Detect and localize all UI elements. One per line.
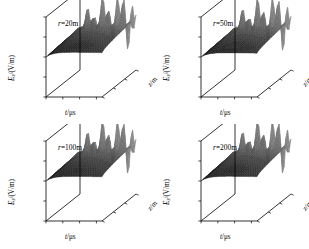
y-axis-label-units: /(V/m) <box>163 179 171 199</box>
panel-title: r=20m <box>58 19 78 28</box>
z-tick <box>102 221 105 222</box>
y-axis-label: Ez/(V/m) <box>163 55 171 81</box>
z-tick <box>268 212 271 213</box>
y-axis-label-units: /(V/m) <box>8 179 16 199</box>
x-axis-label-units: /μs <box>222 109 231 117</box>
panel-title-value: =50m <box>216 19 233 28</box>
z-tick <box>291 194 294 195</box>
z-tick <box>280 203 283 204</box>
z-tick <box>291 70 294 71</box>
z-tick <box>136 70 139 71</box>
panel-r-200m: r=200mEz/(V/m)t/μsz/m <box>155 124 309 248</box>
z-tick <box>268 88 271 89</box>
y-axis-label-units: /(V/m) <box>8 55 16 75</box>
z-tick <box>125 79 128 80</box>
z-tick <box>102 97 105 98</box>
panel-title-value: =100m <box>61 143 82 152</box>
z-tick <box>125 203 128 204</box>
panel-title: r=50m <box>213 19 233 28</box>
z-tick <box>257 97 260 98</box>
panel-title-value: =200m <box>216 143 237 152</box>
figure-multi-panel-surface-plots: r=20mEz/(V/m)t/μsz/m r=50mEz/(V/m)t/μsz/… <box>0 0 309 249</box>
x-axis-label: t/μs <box>65 109 76 117</box>
x-axis-label: t/μs <box>220 233 231 241</box>
panel-title: r=200m <box>213 143 237 152</box>
panel-r-20m: r=20mEz/(V/m)t/μsz/m <box>0 0 154 124</box>
y-axis-label: Ez/(V/m) <box>8 55 16 81</box>
x-axis-label: t/μs <box>220 109 231 117</box>
x-axis-label-units: /μs <box>67 109 76 117</box>
panel-r-50m: r=50mEz/(V/m)t/μsz/m <box>155 0 309 124</box>
panel-r-100m: r=100mEz/(V/m)t/μsz/m <box>0 124 154 248</box>
panel-title: r=100m <box>58 143 82 152</box>
z-tick <box>257 221 260 222</box>
z-tick <box>280 79 283 80</box>
y-axis-label: Ez/(V/m) <box>8 179 16 205</box>
y-axis-label: Ez/(V/m) <box>163 179 171 205</box>
panel-title-value: =20m <box>61 19 78 28</box>
x-axis-label: t/μs <box>65 233 76 241</box>
y-axis-label-units: /(V/m) <box>163 55 171 75</box>
z-tick <box>113 212 116 213</box>
x-axis-label-units: /μs <box>67 233 76 241</box>
z-tick <box>113 88 116 89</box>
z-tick <box>136 194 139 195</box>
x-axis-label-units: /μs <box>222 233 231 241</box>
